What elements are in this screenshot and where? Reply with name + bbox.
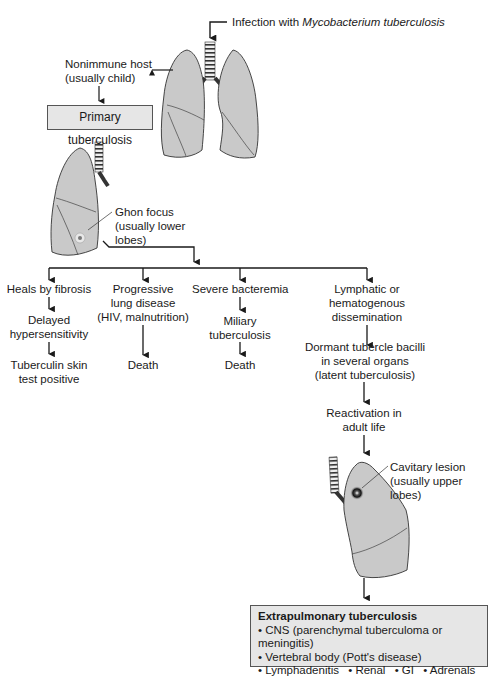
- infection-arrow: [210, 22, 227, 38]
- branch-heals-by-fibrosis: Heals by fibrosis: [4, 282, 94, 296]
- branch-line: Progressive: [93, 282, 193, 296]
- step-tuberculin-skin-test: Tuberculin skin test positive: [4, 358, 94, 386]
- organism-name: Mycobacterium tuberculosis: [302, 16, 445, 28]
- infection-label: Infection with Mycobacterium tuberculosi…: [232, 15, 445, 29]
- trachea-icon: [205, 42, 215, 80]
- step-latent-tuberculosis: Dormant tubercle bacilli in several orga…: [304, 340, 426, 382]
- ghon-line1: Ghon focus: [115, 205, 185, 219]
- primary-tuberculosis-box: Primary tuberculosis: [47, 105, 153, 130]
- branch-line: (HIV, malnutrition): [93, 310, 193, 324]
- ghon-line2: (usually lower: [115, 219, 185, 233]
- step-line: in several organs: [304, 354, 426, 368]
- branch-line: Lymphatic or: [317, 282, 417, 296]
- branch-label: Heals by fibrosis: [4, 282, 94, 296]
- step-delayed-hypersensitivity: Delayed hypersensitivity: [4, 313, 94, 341]
- extrapulmonary-item-lymphadenitis: • Lymphadenitis: [258, 664, 339, 676]
- extrapulmonary-item-vertebral: • Vertebral body (Pott's disease): [258, 651, 487, 665]
- step-reactivation: Reactivation in adult life: [314, 406, 414, 434]
- extrapulmonary-inline-items: • Lymphadenitis • Renal • GI • Adrenals: [258, 664, 487, 678]
- trachea-icon: [329, 457, 339, 493]
- branch-progressive-lung-disease: Progressive lung disease (HIV, malnutrit…: [93, 282, 193, 324]
- branch-line: hematogenous: [317, 296, 417, 310]
- step-line: hypersensitivity: [4, 327, 94, 341]
- ghon-line3: lobes): [115, 233, 185, 247]
- step-line: adult life: [314, 420, 414, 434]
- nonimmune-line1: Nonimmune host: [65, 57, 152, 71]
- step-line: Tuberculin skin: [4, 358, 94, 372]
- step-death-miliary: Death: [192, 358, 288, 372]
- step-line: tuberculosis: [192, 328, 288, 342]
- branch-severe-bacteremia: Severe bacteremia: [192, 282, 288, 296]
- step-miliary-tuberculosis: Miliary tuberculosis: [192, 314, 288, 342]
- cavitary-line2: (usually upper: [390, 474, 465, 488]
- branch-line: Severe bacteremia: [192, 282, 288, 296]
- step-line: Death: [93, 358, 193, 372]
- nonimmune-line2: (usually child): [65, 71, 152, 85]
- cavitary-line3: lobes): [390, 488, 465, 502]
- step-line: test positive: [4, 372, 94, 386]
- extrapulmonary-tuberculosis-box: Extrapulmonary tuberculosis • CNS (paren…: [250, 605, 488, 667]
- step-line: (latent tuberculosis): [304, 368, 426, 382]
- step-line: Dormant tubercle bacilli: [304, 340, 426, 354]
- step-death-progressive: Death: [93, 358, 193, 372]
- extrapulmonary-title: Extrapulmonary tuberculosis: [258, 610, 487, 624]
- extrapulmonary-item-adrenals: • Adrenals: [423, 664, 475, 676]
- branch-lymphatic-dissemination: Lymphatic or hematogenous dissemination: [317, 282, 417, 324]
- cavitary-lesion-label: Cavitary lesion (usually upper lobes): [390, 460, 465, 502]
- cavitary-line1: Cavitary lesion: [390, 460, 465, 474]
- extrapulmonary-item-renal: • Renal: [348, 664, 385, 676]
- extrapulmonary-item-cns: • CNS (parenchymal tuberculoma or mening…: [258, 624, 487, 651]
- ghon-focus-label: Ghon focus (usually lower lobes): [115, 205, 185, 247]
- step-line: Delayed: [4, 313, 94, 327]
- step-line: Death: [192, 358, 288, 372]
- branch-line: dissemination: [317, 310, 417, 324]
- nonimmune-host-label: Nonimmune host (usually child): [65, 57, 152, 85]
- branch-line: lung disease: [93, 296, 193, 310]
- step-line: Reactivation in: [314, 406, 414, 420]
- extrapulmonary-item-gi: • GI: [395, 664, 414, 676]
- step-line: Miliary: [192, 314, 288, 328]
- infection-prefix: Infection with: [232, 16, 302, 28]
